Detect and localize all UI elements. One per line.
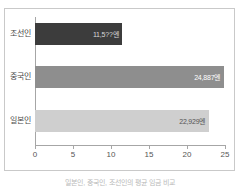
x-tick-label: 5	[71, 150, 75, 160]
x-tick-label: 0	[33, 150, 37, 160]
x-tick-mark	[35, 145, 36, 149]
bar-korean: 11,5??엔	[35, 23, 122, 45]
x-tick-label: 25	[221, 150, 230, 160]
figure-caption: 일본인, 중국인, 조선인의 평균 임금 비교	[0, 178, 240, 187]
x-tick-label: 20	[183, 150, 192, 160]
bar-value-label-1: 24,887엔	[194, 73, 220, 82]
x-tick-label: 15	[145, 150, 154, 160]
category-label-0: 조선인	[10, 29, 31, 39]
category-axis-line	[35, 145, 225, 146]
x-tick-mark	[225, 145, 226, 149]
x-tick-mark	[149, 145, 150, 149]
x-tick-mark	[187, 145, 188, 149]
category-label-2: 일본인	[10, 116, 31, 126]
category-label-1: 중국인	[10, 72, 31, 82]
chart-figure: 조선인 11,5??엔 중국인 24,887엔 일본인 22,929엔 0510…	[0, 0, 240, 191]
bar-value-label-2: 22,929엔	[179, 117, 205, 126]
bar-chinese: 24,887엔	[35, 66, 224, 88]
x-tick-mark	[111, 145, 112, 149]
plot-area: 조선인 11,5??엔 중국인 24,887엔 일본인 22,929엔	[35, 17, 225, 145]
x-tick-mark	[73, 145, 74, 149]
x-tick-label: 10	[107, 150, 116, 160]
bar-value-label-0: 11,5??엔	[93, 30, 119, 39]
bar-japanese: 22,929엔	[35, 110, 209, 132]
